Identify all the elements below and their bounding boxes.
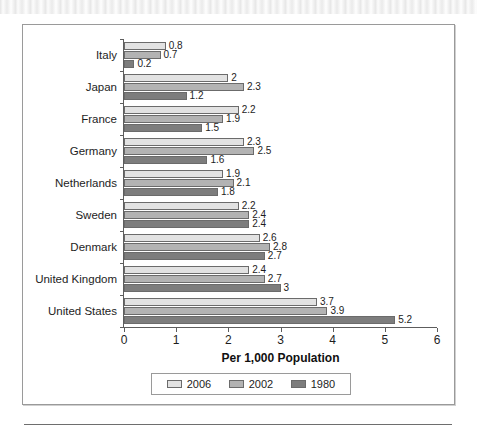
bar-2002: [124, 275, 265, 283]
bar-row: 2.7: [124, 275, 437, 283]
x-tick-mark: [385, 328, 386, 332]
legend-item-2006[interactable]: 2006: [167, 378, 211, 390]
x-tick-mark: [437, 328, 438, 332]
bar-row: 1.9: [124, 170, 437, 178]
bar-row: 2.7: [124, 252, 437, 260]
bar-row: 2.5: [124, 147, 437, 155]
bar-value-label: 3: [284, 282, 290, 293]
bar-group: 2.42.73: [124, 263, 437, 295]
x-tick-mark: [124, 328, 125, 332]
bar-group: 1.92.11.8: [124, 167, 437, 199]
bar-1980: [124, 60, 134, 68]
x-axis-ticks: 0123456: [124, 328, 437, 350]
bar-1980: [124, 252, 265, 260]
bar-1980: [124, 156, 207, 164]
bar-row: 1.8: [124, 188, 437, 196]
bar-2002: [124, 83, 244, 91]
bar-2002: [124, 147, 254, 155]
bar-row: 0.2: [124, 60, 437, 68]
bar-row: 1.9: [124, 115, 437, 123]
x-tick-mark: [281, 328, 282, 332]
bar-row: 1.5: [124, 124, 437, 132]
bar-2002: [124, 307, 327, 315]
bar-1980: [124, 92, 187, 100]
bar-value-label: 1.2: [190, 90, 204, 101]
bar-value-label: 2.7: [268, 273, 282, 284]
bar-1980: [124, 220, 249, 228]
bar-row: 2.3: [124, 138, 437, 146]
x-tick-label: 5: [381, 333, 388, 347]
x-tick-mark: [228, 328, 229, 332]
category-label: United Kingdom: [35, 272, 117, 286]
bar-value-label: 2.3: [247, 81, 261, 92]
category-label: Sweden: [75, 208, 117, 222]
category-label: United States: [48, 304, 117, 318]
category-label: Italy: [96, 48, 117, 62]
category-tick-mark: [120, 39, 124, 40]
category-tick-mark: [120, 263, 124, 264]
bar-value-label: 2.7: [268, 250, 282, 261]
bar-2006: [124, 202, 239, 210]
scan-artifact-band: [0, 0, 477, 14]
bar-1980: [124, 284, 281, 292]
category-tick-mark: [120, 295, 124, 296]
legend-item-2002[interactable]: 2002: [229, 378, 273, 390]
bar-row: 2.1: [124, 179, 437, 187]
bar-2006: [124, 74, 228, 82]
bar-groups: 0.80.70.222.31.22.21.91.52.32.51.61.92.1…: [124, 39, 437, 327]
bar-group: 2.21.91.5: [124, 103, 437, 135]
bar-value-label: 2.4: [252, 264, 266, 275]
bar-2006: [124, 106, 239, 114]
bar-group: 2.62.82.7: [124, 231, 437, 263]
x-tick-label: 0: [121, 333, 128, 347]
bar-row: 5.2: [124, 316, 437, 324]
chart-legend: 200620021980: [151, 373, 351, 395]
bar-2006: [124, 298, 317, 306]
bar-value-label: 2.5: [257, 145, 271, 156]
legend-label: 2006: [187, 378, 211, 390]
bar-group: 2.22.42.4: [124, 199, 437, 231]
bar-value-label: 2: [231, 72, 237, 83]
bar-group: 2.32.51.6: [124, 135, 437, 167]
bar-row: 2: [124, 74, 437, 82]
bar-group: 3.73.95.2: [124, 295, 437, 327]
bar-row: 3: [124, 284, 437, 292]
bar-row: 2.2: [124, 106, 437, 114]
bar-2006: [124, 42, 166, 50]
bar-row: 2.4: [124, 220, 437, 228]
category-label: Denmark: [70, 240, 117, 254]
bar-row: 0.7: [124, 51, 437, 59]
bar-value-label: 1.8: [221, 186, 235, 197]
bar-value-label: 2.4: [252, 218, 266, 229]
bar-value-label: 5.2: [398, 314, 412, 325]
x-tick-label: 4: [329, 333, 336, 347]
legend-swatch-icon: [167, 380, 182, 388]
bar-2002: [124, 243, 270, 251]
bar-row: 3.7: [124, 298, 437, 306]
bar-1980: [124, 188, 218, 196]
chart-figure-frame: ItalyJapanFranceGermanyNetherlandsSweden…: [22, 24, 455, 405]
bar-1980: [124, 316, 395, 324]
bar-2006: [124, 170, 223, 178]
legend-swatch-icon: [229, 380, 244, 388]
bar-2006: [124, 138, 244, 146]
bar-row: 2.3: [124, 83, 437, 91]
bar-1980: [124, 124, 202, 132]
category-tick-mark: [120, 167, 124, 168]
bar-2002: [124, 179, 234, 187]
page-horizontal-rule: [24, 424, 452, 425]
bar-row: 2.2: [124, 202, 437, 210]
legend-label: 2002: [249, 378, 273, 390]
bar-value-label: 1.5: [205, 122, 219, 133]
bar-value-label: 0.2: [137, 58, 151, 69]
category-label: Japan: [86, 80, 117, 94]
legend-item-1980[interactable]: 1980: [291, 378, 335, 390]
bar-2002: [124, 211, 249, 219]
legend-label: 1980: [311, 378, 335, 390]
bar-2006: [124, 234, 260, 242]
category-tick-mark: [120, 199, 124, 200]
category-label: France: [81, 112, 117, 126]
bar-value-label: 2.2: [242, 104, 256, 115]
bar-row: 1.6: [124, 156, 437, 164]
category-tick-mark: [120, 103, 124, 104]
